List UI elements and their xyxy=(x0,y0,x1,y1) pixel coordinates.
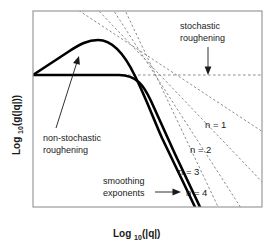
exponent-label-n3: n = 3 xyxy=(178,166,199,177)
non-stochastic-roughening-line1: non-stochastic xyxy=(43,133,102,143)
exponent-label-n1: n = 1 xyxy=(205,119,226,130)
chart-svg: stochastic roughening non-stochastic rou… xyxy=(0,0,274,249)
x-axis-label-subscript: 10 xyxy=(134,234,142,241)
y-axis-label-base: Log xyxy=(11,137,22,155)
stochastic-roughening-line2: roughening xyxy=(180,33,225,43)
chart-figure: stochastic roughening non-stochastic rou… xyxy=(0,0,274,249)
non-stochastic-roughening-line2: roughening xyxy=(43,145,88,155)
smoothing-exponents-line1: smoothing xyxy=(103,176,145,186)
exponent-label-n2: n = 2 xyxy=(190,144,211,155)
y-axis-label: Log 10 (g(|q|)) xyxy=(11,95,24,155)
stochastic-roughening-line1: stochastic xyxy=(180,21,221,31)
y-axis-label-subscript: 10 xyxy=(17,126,24,134)
y-axis-label-tail: (g(|q|)) xyxy=(11,95,22,126)
x-axis-label: Log 10 (|q|) xyxy=(113,228,160,241)
x-axis-label-tail: (|q|) xyxy=(142,228,160,239)
smoothing-exponents-line2: exponents xyxy=(103,188,145,198)
exponent-label-n4: n = 4 xyxy=(186,187,207,198)
x-axis-label-base: Log xyxy=(113,228,131,239)
plot-background xyxy=(33,11,262,207)
